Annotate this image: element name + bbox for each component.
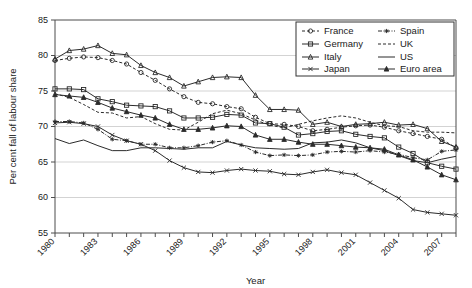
series-marker-euro-area: [182, 127, 187, 132]
y-tick-label-60: 60: [38, 192, 48, 202]
series-marker-euro-area: [353, 144, 358, 149]
series-line-uk: [55, 94, 456, 133]
y-tick-label-75: 75: [38, 86, 48, 96]
series-marker-euro-area: [167, 122, 172, 127]
legend-label-euro-area: Euro area: [400, 63, 442, 74]
legend-label-france: France: [324, 25, 354, 36]
series-marker-euro-area: [282, 137, 287, 142]
chart-figure: 5560657075808519801983198619891992199519…: [0, 0, 472, 288]
y-tick-label-85: 85: [38, 15, 48, 25]
x-tick-label-1989: 1989: [164, 236, 185, 257]
series-line-germany: [55, 89, 456, 169]
series-marker-france: [182, 95, 186, 99]
series-marker-euro-area: [196, 127, 201, 132]
series-marker-france: [139, 70, 143, 74]
x-tick-label-1983: 1983: [78, 236, 99, 257]
legend-label-us: US: [400, 51, 413, 62]
series-marker-euro-area: [239, 124, 244, 129]
legend-label-japan: Japan: [324, 63, 350, 74]
y-tick-label-55: 55: [38, 228, 48, 238]
x-tick-label-1998: 1998: [293, 236, 314, 257]
series-marker-euro-area: [210, 125, 215, 130]
x-tick-label-1995: 1995: [250, 236, 271, 257]
y-tick-label-65: 65: [38, 157, 48, 167]
series-marker-euro-area: [454, 177, 459, 182]
x-axis-title: Year: [246, 275, 265, 286]
x-tick-label-2001: 2001: [336, 236, 357, 257]
series-marker-euro-area: [296, 140, 301, 145]
x-tick-label-1992: 1992: [207, 236, 228, 257]
series-marker-euro-area: [268, 137, 273, 142]
series-marker-euro-area: [139, 113, 144, 118]
series-marker-euro-area: [53, 92, 58, 97]
y-tick-label-70: 70: [38, 121, 48, 131]
x-tick-label-1980: 1980: [35, 236, 56, 257]
series-marker-euro-area: [153, 115, 158, 120]
line-chart: 5560657075808519801983198619891992199519…: [0, 0, 472, 288]
y-axis-title: Per cent fall of labour share: [7, 68, 18, 184]
series-marker-euro-area: [81, 95, 86, 100]
series-marker-euro-area: [124, 109, 129, 114]
series-marker-euro-area: [253, 132, 258, 137]
y-tick-label-80: 80: [38, 50, 48, 60]
series-marker-euro-area: [368, 145, 373, 150]
series-marker-euro-area: [339, 143, 344, 148]
series-marker-euro-area: [225, 123, 230, 128]
x-tick-label-1986: 1986: [121, 236, 142, 257]
x-tick-label-2007: 2007: [422, 236, 443, 257]
series-marker-euro-area: [439, 172, 444, 177]
series-marker-euro-area: [110, 105, 115, 110]
legend-label-germany: Germany: [324, 38, 363, 49]
x-tick-label-2004: 2004: [379, 236, 400, 257]
series-marker-euro-area: [382, 147, 387, 152]
legend-label-uk: UK: [400, 38, 414, 49]
series-marker-france: [253, 115, 257, 119]
legend-label-spain: Spain: [400, 25, 424, 36]
series-marker-euro-area: [67, 93, 72, 98]
legend-label-italy: Italy: [324, 51, 342, 62]
